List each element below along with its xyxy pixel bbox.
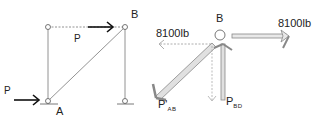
member-bd-force [214,44,232,100]
fbd-force-left-label: 8100lb [156,28,189,39]
member-bd-subscript: BD [233,103,242,109]
fbd-member-bd-label: PBD [226,96,243,107]
bd-dashed-ref [208,46,216,101]
fbd-force-right-label: 8100lb [278,18,311,29]
fbd-member-ab-label: P'AB [158,99,176,110]
member-ab-force [153,43,216,100]
node-b-circle [215,30,225,40]
load-arrow-top [88,22,113,32]
truss-load-left-label: P [4,86,11,96]
load-arrow-left [14,95,39,105]
truss-frame [48,27,125,101]
truss-load-top-label: P [74,34,81,44]
force-8100-left [159,40,212,49]
fbd-node-b-label: B [216,13,223,24]
force-8100-right [232,30,289,48]
diagram-canvas: B A P P B 8100lb 8100lb P'AB PBD [0,0,324,122]
truss-node-a-label: A [56,106,63,117]
truss-node-b-label: B [131,9,138,20]
member-ab-subscript: AB [167,106,176,112]
